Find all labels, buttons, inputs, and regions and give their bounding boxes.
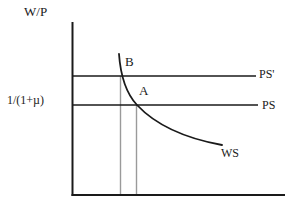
y-axis-label: W/P [24, 5, 47, 18]
ws-curve [119, 54, 222, 145]
point-label-a: A [139, 84, 148, 97]
series-label-ws: WS [221, 147, 239, 159]
y-axis-tick-label-markup-wage: 1/(1+µ) [7, 94, 44, 106]
diagram-canvas [0, 0, 291, 215]
series-label-ps-prime: PS' [259, 68, 275, 80]
wage-setting-price-setting-diagram: W/P 1/(1+µ) B A PS' PS WS [0, 0, 291, 215]
point-label-b: B [125, 55, 134, 68]
series-label-ps: PS [262, 99, 275, 111]
